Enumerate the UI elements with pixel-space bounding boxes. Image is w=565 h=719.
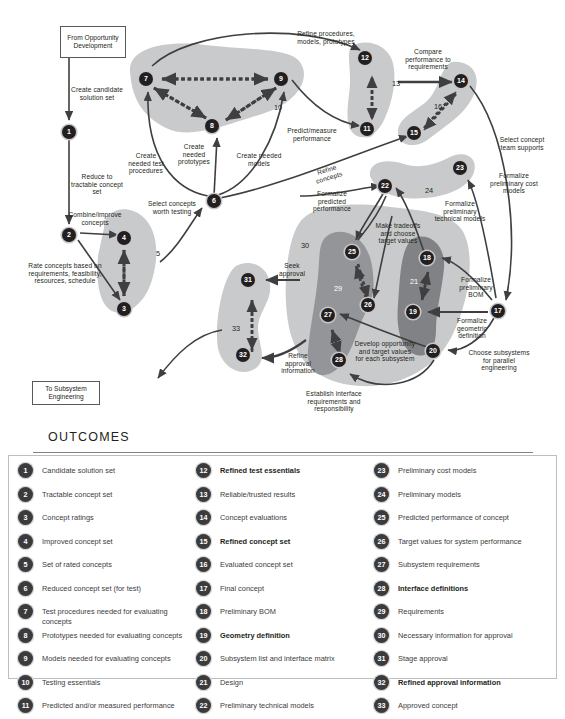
outcome-item: 24Preliminary models <box>374 487 554 511</box>
outcome-label: Refined test essentials <box>220 463 371 476</box>
outcome-item: 15Refined concept set <box>196 534 371 558</box>
outcome-label: Test procedures needed for evaluating co… <box>42 604 193 626</box>
node-22[interactable]: 22 <box>378 179 392 193</box>
outcome-label: Models needed for evaluating concepts <box>42 651 193 664</box>
outcome-number-badge: 25 <box>374 510 389 525</box>
outcome-item: 19Geometry definition <box>196 628 371 652</box>
node-1[interactable]: 1 <box>62 125 76 139</box>
outcome-number-badge: 23 <box>374 463 389 478</box>
outcome-item: 33Approved concept <box>374 698 554 719</box>
outcomes-column-2: 12Refined test essentials13Reliable/trus… <box>196 463 371 719</box>
outcome-number-badge: 3 <box>18 510 33 525</box>
node-11[interactable]: 11 <box>360 122 374 136</box>
label-establish-interface-requirements: Establish interface requirements and res… <box>295 390 373 413</box>
outcome-label: Preliminary technical models <box>220 698 371 711</box>
outcome-item: 9Models needed for evaluating concepts <box>18 651 193 675</box>
outcome-item: 23Preliminary cost models <box>374 463 554 487</box>
node-2[interactable]: 2 <box>62 228 76 242</box>
outcome-number-badge: 11 <box>18 698 33 713</box>
label-select-concept-team-supports: Select concept team supports <box>498 136 546 151</box>
label-predict-measure-performance: Predict/measure performance <box>282 127 342 142</box>
node-27[interactable]: 27 <box>321 308 335 322</box>
node-31[interactable]: 31 <box>241 273 255 287</box>
outcome-item: 2Tractable concept set <box>18 487 193 511</box>
outcome-number-badge: 33 <box>374 698 389 713</box>
outcome-label: Improved concept set <box>42 534 193 547</box>
outcome-label: Preliminary cost models <box>398 463 554 476</box>
node-8[interactable]: 8 <box>205 119 219 133</box>
node-26[interactable]: 26 <box>361 298 375 312</box>
blob-number-10: 10 <box>274 103 282 112</box>
process-flow-diagram: From Opportunity Development To Subsyste… <box>0 0 565 425</box>
outcomes-column-3: 23Preliminary cost models24Preliminary m… <box>374 463 554 719</box>
node-9[interactable]: 9 <box>274 72 288 86</box>
outcome-number-badge: 1 <box>18 463 33 478</box>
outcome-number-badge: 8 <box>18 628 33 643</box>
outcome-item: 32Refined approval information <box>374 675 554 699</box>
outcome-number-badge: 32 <box>374 675 389 690</box>
outcome-number-badge: 27 <box>374 557 389 572</box>
label-formalize-preliminary-technical-models: Formalize preliminary technical models <box>434 200 486 223</box>
outcome-item: 31Stage approval <box>374 651 554 675</box>
node-25[interactable]: 25 <box>345 245 359 259</box>
label-create-candidate-solution-set: Create candidate solution set <box>68 86 126 101</box>
outcome-label: Necessary information for approval <box>398 628 554 641</box>
label-combine-improve-concepts: Combine/improve concepts <box>64 211 126 226</box>
node-32[interactable]: 32 <box>236 348 250 362</box>
node-14[interactable]: 14 <box>454 74 468 88</box>
node-20[interactable]: 20 <box>426 344 440 358</box>
outcomes-divider <box>33 452 533 453</box>
node-4[interactable]: 4 <box>117 231 131 245</box>
outcome-label: Testing essentials <box>42 675 193 688</box>
outcome-item: 8Prototypes needed for evaluating concep… <box>18 628 193 652</box>
blob-number-16: 16 <box>434 102 442 111</box>
outcome-item: 18Preliminary BOM <box>196 604 371 628</box>
node-6[interactable]: 6 <box>207 194 221 208</box>
outcome-label: Evaluated concept set <box>220 557 371 570</box>
node-7[interactable]: 7 <box>139 72 153 86</box>
label-formalize-preliminary-bom: Formalize preliminary BOM <box>453 276 499 299</box>
blob-number-29: 29 <box>334 284 342 293</box>
node-12[interactable]: 12 <box>358 51 372 65</box>
outcome-item: 21Design <box>196 675 371 699</box>
outcome-item: 4Improved concept set <box>18 534 193 558</box>
label-refine-approval-information: Refine approval information <box>277 352 319 375</box>
label-refine-procedures-models-prototypes: Refine procedures, models, prototypes <box>288 30 364 45</box>
outcome-item: 12Refined test essentials <box>196 463 371 487</box>
blob-number-13: 13 <box>392 79 400 88</box>
outcome-label: Predicted and/or measured performance <box>42 698 193 711</box>
node-3[interactable]: 3 <box>117 302 131 316</box>
node-15[interactable]: 15 <box>407 126 421 140</box>
outcome-item: 25Predicted performance of concept <box>374 510 554 534</box>
outcome-item: 7Test procedures needed for evaluating c… <box>18 604 193 628</box>
outcome-item: 13Reliable/trusted results <box>196 487 371 511</box>
outcome-item: 10Testing essentials <box>18 675 193 699</box>
outcome-item: 11Predicted and/or measured performance <box>18 698 193 719</box>
outcome-label: Preliminary models <box>398 487 554 500</box>
outcome-label: Target values for system performance <box>398 534 554 547</box>
blob-number-33: 33 <box>232 324 240 333</box>
outcome-item: 22Preliminary technical models <box>196 698 371 719</box>
outcome-number-badge: 26 <box>374 534 389 549</box>
terminator-to-subsystem-engineering: To Subsystem Engineering <box>32 381 100 405</box>
outcome-label: Refined concept set <box>220 534 371 547</box>
outcome-number-badge: 20 <box>196 651 211 666</box>
blob-number-30: 30 <box>301 241 309 250</box>
node-19[interactable]: 19 <box>406 305 420 319</box>
outcome-number-badge: 18 <box>196 604 211 619</box>
outcome-number-badge: 6 <box>18 581 33 596</box>
label-create-needed-models: Create needed models <box>233 152 285 167</box>
outcome-number-badge: 19 <box>196 628 211 643</box>
outcome-label: Requirements <box>398 604 554 617</box>
node-28[interactable]: 28 <box>332 353 346 367</box>
outcome-label: Subsystem requirements <box>398 557 554 570</box>
node-17[interactable]: 17 <box>491 304 505 318</box>
node-23[interactable]: 23 <box>453 161 467 175</box>
outcome-label: Stage approval <box>398 651 554 664</box>
outcome-label: Prototypes needed for evaluating concept… <box>42 628 193 641</box>
outcome-label: Predicted performance of concept <box>398 510 554 523</box>
node-18[interactable]: 18 <box>420 251 434 265</box>
blob-number-5: 5 <box>156 249 160 258</box>
outcome-number-badge: 7 <box>18 604 33 619</box>
outcome-number-badge: 17 <box>196 581 211 596</box>
